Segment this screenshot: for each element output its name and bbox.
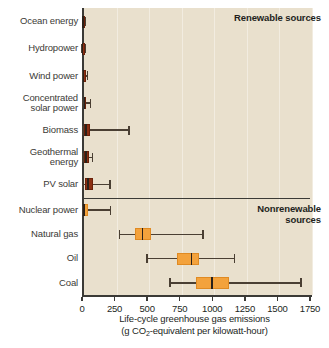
whisker-cap-low bbox=[82, 180, 83, 189]
whisker-cap-high bbox=[92, 153, 93, 162]
median-line bbox=[82, 43, 84, 55]
life-cycle-emissions-boxplot-chart: Ocean energyHydropowerWind powerConcentr… bbox=[0, 0, 329, 348]
whisker-line bbox=[120, 234, 203, 235]
whisker-cap-high bbox=[128, 126, 129, 135]
boxplot-row bbox=[0, 176, 329, 192]
x-tick bbox=[114, 297, 115, 301]
chart-overlay: Renewable sourcesNonrenewablesources0250… bbox=[0, 0, 329, 348]
x-tick bbox=[81, 297, 82, 301]
median-line bbox=[85, 151, 87, 163]
whisker-cap-high bbox=[85, 44, 86, 53]
whisker-cap-high bbox=[110, 206, 111, 215]
median-line bbox=[191, 253, 193, 265]
whisker-cap-low bbox=[146, 254, 147, 263]
whisker-cap-low bbox=[119, 230, 120, 239]
whisker-line bbox=[170, 282, 301, 283]
boxplot-row bbox=[0, 251, 329, 267]
boxplot-row bbox=[0, 149, 329, 165]
median-line bbox=[211, 277, 213, 289]
median-line bbox=[83, 204, 85, 216]
x-axis-title-pre: (g CO bbox=[121, 325, 146, 336]
median-line bbox=[142, 228, 144, 240]
boxplot-row bbox=[0, 122, 329, 138]
whisker-cap-high bbox=[300, 278, 301, 287]
boxplot-row bbox=[0, 275, 329, 291]
whisker-cap-high bbox=[234, 254, 235, 263]
boxplot-row bbox=[0, 41, 329, 57]
x-tick bbox=[146, 297, 147, 301]
whisker-cap-high bbox=[202, 230, 203, 239]
x-axis-title-line1: Life-cycle greenhouse gas emissions bbox=[60, 313, 329, 325]
boxplot-row bbox=[0, 14, 329, 30]
boxplot-row bbox=[0, 68, 329, 84]
x-tick bbox=[244, 297, 245, 301]
boxplot-row bbox=[0, 202, 329, 218]
boxplot-row bbox=[0, 95, 329, 111]
whisker-cap-low bbox=[169, 278, 170, 287]
x-axis-title-line2: (g CO2-equivalent per kilowatt-hour) bbox=[60, 325, 329, 338]
median-line bbox=[84, 97, 86, 109]
whisker-cap-high bbox=[90, 99, 91, 108]
x-tick bbox=[179, 297, 180, 301]
x-axis-title-subscript: 2 bbox=[146, 330, 150, 337]
whisker-cap-high bbox=[109, 180, 110, 189]
box-iqr bbox=[177, 253, 199, 265]
x-tick bbox=[212, 297, 213, 301]
x-tick bbox=[277, 297, 278, 301]
section-divider bbox=[82, 198, 310, 199]
box-iqr bbox=[85, 178, 93, 190]
whisker-cap-high bbox=[87, 71, 88, 80]
x-axis-title-post: -equivalent per kilowatt-hour) bbox=[150, 325, 268, 336]
median-line bbox=[87, 178, 89, 190]
boxplot-row bbox=[0, 226, 329, 242]
x-tick bbox=[309, 297, 310, 301]
median-line bbox=[82, 16, 84, 28]
median-line bbox=[83, 70, 85, 82]
x-axis-title: Life-cycle greenhouse gas emissions (g C… bbox=[60, 313, 329, 338]
median-line bbox=[85, 124, 87, 136]
